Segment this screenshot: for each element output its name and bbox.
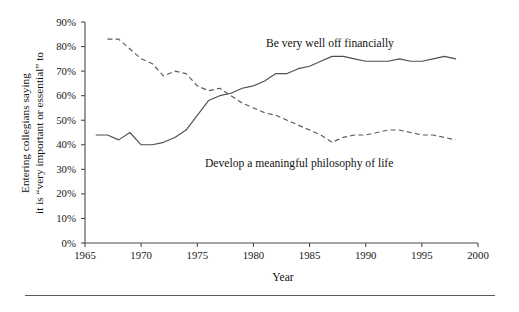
x-tick-label: 2000	[467, 249, 489, 261]
line-chart: 0%10%20%30%40%50%60%70%80%90% 1965197019…	[0, 0, 519, 312]
x-tick-label: 1965	[74, 249, 96, 261]
y-tick-label: 60%	[56, 89, 76, 101]
x-axis-ticks: 19651970197519801985199019952000	[74, 243, 489, 261]
figure-container: Entering collegians saying it is “very i…	[0, 0, 519, 312]
y-tick-label: 50%	[56, 114, 76, 126]
y-tick-label: 40%	[56, 138, 76, 150]
x-tick-label: 1975	[186, 249, 208, 261]
series-line-dashed	[107, 39, 455, 142]
x-tick-label: 1995	[411, 249, 433, 261]
x-axis-title: Year	[272, 271, 294, 284]
annotation-be-very-well-off: Be very well off financially	[266, 37, 394, 50]
footer-partial-text	[25, 300, 495, 311]
y-tick-label: 90%	[56, 16, 76, 28]
series-line-solid	[96, 56, 455, 144]
y-tick-label: 20%	[56, 187, 76, 199]
y-axis-ticks: 0%10%20%30%40%50%60%70%80%90%	[56, 16, 85, 249]
axis-lines	[85, 22, 478, 243]
y-tick-label: 0%	[62, 237, 76, 249]
y-tick-label: 10%	[56, 212, 76, 224]
footer-divider	[25, 295, 495, 296]
y-tick-label: 70%	[56, 65, 76, 77]
y-tick-label: 80%	[56, 40, 76, 52]
annotation-develop-philosophy: Develop a meaningful philosophy of life	[205, 157, 393, 170]
x-tick-label: 1990	[355, 249, 377, 261]
y-tick-label: 30%	[56, 163, 76, 175]
x-tick-label: 1970	[130, 249, 152, 261]
x-tick-label: 1980	[243, 249, 265, 261]
x-tick-label: 1985	[299, 249, 321, 261]
